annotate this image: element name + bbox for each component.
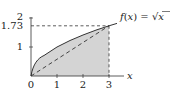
x-tick-label-3: 3 [106,79,112,90]
x-axis-label: x [127,70,133,81]
x-tick-label-1: 1 [54,79,60,90]
function-label: f(x) = √x [119,11,164,22]
y-tick-label-1-73: 1.73 [1,20,23,31]
function-label-arg: x [158,11,164,22]
y-tick-label-1: 1 [17,41,23,52]
x-tick-label-0: 0 [28,79,34,90]
x-tick-label-2: 2 [80,79,86,90]
sqrt-area-chart: 2 1.73 1 0 1 2 3 x f(x) = √x [0,0,172,91]
function-label-eq: = [137,11,152,22]
